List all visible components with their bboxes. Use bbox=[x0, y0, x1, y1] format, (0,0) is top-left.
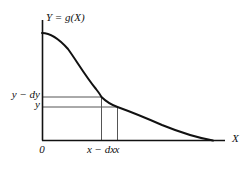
x-tick-label-origin: 0 bbox=[32, 144, 52, 155]
function-plot-figure: Y = g(X) X y − dy y 0 x − dx x bbox=[0, 0, 249, 169]
y-tick-label-y: y bbox=[0, 99, 40, 110]
function-curve bbox=[42, 33, 213, 141]
x-tick-label-x: x bbox=[107, 144, 127, 155]
curve-label: Y = g(X) bbox=[46, 12, 85, 23]
x-axis-label: X bbox=[232, 133, 239, 144]
